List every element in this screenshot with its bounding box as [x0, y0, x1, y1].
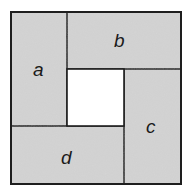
label-a: a — [33, 59, 44, 80]
label-d: d — [61, 147, 73, 168]
label-c: c — [146, 116, 156, 137]
center-square — [67, 69, 124, 126]
pinwheel-square-diagram: a b c d — [0, 0, 185, 193]
label-b: b — [114, 30, 125, 51]
